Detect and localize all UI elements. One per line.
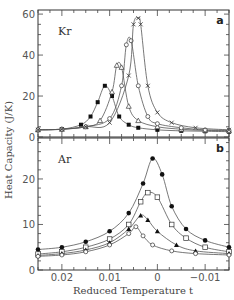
figure: 0204060 Kr a 01020 Ar b 0.020.010−0.01 R… [0,0,234,300]
series-filled-triangles [36,213,232,258]
y-tick-label: 60 [22,9,35,20]
series-open-circles [36,37,231,132]
y-tick-label: 0 [29,265,35,276]
x-tick-label: −0.01 [190,272,221,283]
y-tick-label: 40 [22,50,35,61]
panel-b: 01020 Ar b [22,138,231,276]
panel-a-gas-label: Kr [58,25,72,38]
y-tick-label: 10 [22,219,35,230]
panel-b-letter: b [216,142,224,155]
panel-a: 0204060 Kr a [22,9,231,143]
x-tick-label: 0.02 [51,272,73,283]
panel-b-series [36,156,232,258]
y-tick-label: 20 [22,91,35,102]
series-filled-circles [36,156,232,252]
x-tick-label: 0 [154,272,160,283]
panel-a-letter: a [216,14,223,27]
series-triangles [36,62,232,133]
y-tick-label: 20 [22,174,35,185]
x-axis-label: Reduced Temperature t [73,285,193,296]
panel-b-gas-label: Ar [57,153,72,166]
y-tick-label: 0 [29,132,35,143]
y-axis-label: Heat Capacity (J/K) [3,101,14,199]
series-filled-squares [36,84,231,134]
x-axis-ticks: 0.020.010−0.01 [51,272,221,283]
x-tick-label: 0.01 [98,272,120,283]
